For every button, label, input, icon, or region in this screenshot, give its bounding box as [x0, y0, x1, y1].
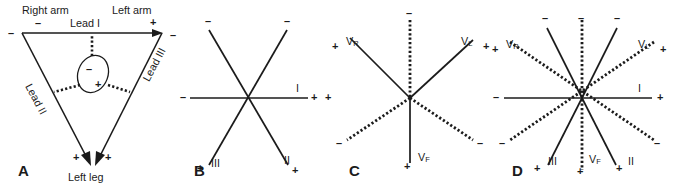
label-lead-i: I: [296, 83, 299, 94]
sign-avr-minus: –: [477, 138, 483, 149]
sign-left-vertex-minus: –: [170, 30, 176, 41]
sign-avl-minus: –: [336, 138, 342, 149]
sign-left-leg-plus-left: +: [73, 152, 79, 163]
panel-standard-limb-lead-axes: – – – + I + III II + B: [180, 0, 330, 190]
sign-left-arm-plus: +: [150, 17, 156, 28]
label-avf: VF: [589, 154, 601, 166]
avl-axis-dotted: [347, 98, 410, 140]
avr-subscript: R: [513, 42, 518, 51]
panel-letter-d: D: [512, 162, 523, 179]
label-right-arm: Right arm: [22, 5, 69, 16]
avl-axis-solid: [410, 40, 473, 98]
avr-axis-solid: [350, 38, 410, 98]
sign-lead-i-plus: +: [311, 92, 317, 103]
sign-heart-minus: –: [86, 64, 92, 75]
sign-lead-ii-minus: –: [542, 13, 548, 24]
label-lead-i: Lead I: [70, 18, 100, 29]
sign-avf-minus: –: [578, 13, 584, 24]
label-left-arm: Left arm: [112, 5, 152, 16]
avr-axis-dotted: [410, 98, 473, 140]
panel-hexaxial-reference-system: – – – + VR VL + – I + – – + III + VF + I…: [490, 0, 674, 190]
sign-avr-plus: +: [492, 44, 498, 55]
label-left-leg: Left leg: [68, 172, 103, 183]
sign-right-vertex-minus: –: [8, 28, 14, 39]
sign-avl-axis-left-plus: +: [325, 92, 331, 103]
sign-lead-i-minus: –: [493, 92, 499, 103]
panel-letter-c: C: [349, 162, 360, 179]
sign-lead-iii-plus: +: [534, 163, 540, 174]
avf-subscript: F: [425, 155, 430, 164]
sign-lead-i-plus: +: [657, 92, 663, 103]
sign-avl-plus: +: [483, 41, 489, 52]
sign-right-arm-minus: –: [35, 18, 41, 29]
sign-avl-plus: +: [660, 44, 666, 55]
panel-letter-b: B: [194, 162, 205, 179]
lead-iii-arrowhead: [95, 151, 105, 166]
panel-einthoven-triangle: Right arm Left arm Left leg Lead I Lead …: [0, 0, 185, 190]
sign-avf-minus: –: [406, 8, 412, 19]
lead-ii-arrowhead: [81, 151, 91, 166]
sign-lead-iii-minus: –: [614, 13, 620, 24]
label-lead-ii: II: [628, 156, 634, 167]
heart-to-lead-ii-dotted: [54, 85, 80, 92]
panel-letter-a: A: [18, 162, 29, 179]
label-avr: VR: [506, 39, 519, 51]
sign-avf-plus: +: [577, 166, 583, 177]
sign-lead-i-minus: –: [180, 92, 186, 103]
label-lead-i: I: [638, 83, 641, 94]
sign-upper-right-minus: –: [284, 16, 290, 27]
sign-avl-minus: –: [499, 138, 505, 149]
label-avl: VL: [461, 36, 472, 48]
sign-upper-left-minus: –: [205, 16, 211, 27]
ecg-lead-axes-figure: Right arm Left arm Left leg Lead I Lead …: [0, 0, 674, 190]
sign-lead-ii-plus: +: [292, 165, 298, 176]
sign-left-leg-plus-right: +: [105, 152, 111, 163]
avl-subscript: L: [645, 42, 649, 51]
label-avr: VR: [346, 36, 359, 48]
heart-ellipse: [72, 51, 113, 97]
sign-heart-plus: +: [95, 79, 101, 90]
sign-avr-plus: +: [332, 41, 338, 52]
label-avf: VF: [418, 152, 430, 164]
label-avl: VL: [638, 39, 649, 51]
sign-avr-minus: –: [654, 138, 660, 149]
heart-to-lead-iii-dotted: [108, 85, 130, 92]
avf-subscript: F: [596, 157, 601, 166]
avr-subscript: R: [353, 39, 358, 48]
label-lead-iii: III: [548, 156, 557, 167]
avl-subscript: L: [468, 39, 472, 48]
sign-avf-plus: +: [404, 161, 410, 172]
label-lead-iii: III: [211, 158, 220, 169]
label-lead-ii: II: [284, 155, 290, 166]
sign-lead-ii-plus: +: [616, 163, 622, 174]
panel-augmented-limb-lead-axes: – + VR VL + + – – + VF C: [325, 0, 495, 190]
